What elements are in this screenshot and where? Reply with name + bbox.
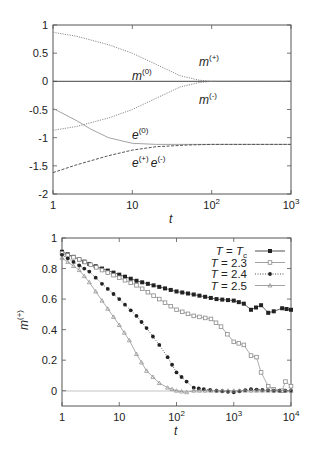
y-tick-label: -1.5 bbox=[29, 160, 48, 172]
bottom-series bbox=[60, 250, 293, 394]
series-0 bbox=[60, 250, 293, 315]
legend-label: T = 2.3 bbox=[211, 257, 247, 269]
series-line bbox=[53, 81, 291, 130]
legend-label: T = 2.4 bbox=[211, 268, 248, 280]
x-tick-label: 102 bbox=[203, 197, 220, 211]
y-tick-label: 1 bbox=[51, 232, 57, 244]
bottom-y-axis: 10.80.60.40.20 bbox=[42, 232, 291, 397]
legend: T = TcT = 2.3T = 2.4T = 2.5 bbox=[211, 245, 285, 292]
y-tick-label: 1 bbox=[42, 19, 48, 31]
figure: 10.50-0.5-1-1.5-2 110102103 t m(+) m(0) … bbox=[0, 0, 314, 452]
series-line bbox=[53, 144, 291, 172]
top-plot-frame bbox=[53, 25, 291, 194]
top-y-axis: 10.50-0.5-1-1.5-2 bbox=[29, 19, 291, 200]
x-tick-label: 1 bbox=[59, 411, 65, 423]
y-tick-label: -2 bbox=[38, 188, 48, 200]
x-tick-label: 103 bbox=[225, 409, 242, 423]
label-e-plus-minus: e(+)e(-) bbox=[132, 154, 166, 170]
y-tick-label: 0.2 bbox=[42, 354, 57, 366]
x-tick-label: 10 bbox=[126, 199, 138, 211]
y-tick-label: 0.6 bbox=[42, 293, 57, 305]
x-tick-label: 1 bbox=[50, 199, 56, 211]
top-series bbox=[53, 32, 291, 172]
x-tick-label: 102 bbox=[168, 409, 185, 423]
y-tick-label: 0.8 bbox=[42, 263, 57, 275]
series-line bbox=[53, 108, 291, 144]
series-line bbox=[62, 252, 291, 313]
x-tick-label: 10 bbox=[113, 411, 125, 423]
legend-label: T = 2.5 bbox=[211, 280, 247, 292]
bottom-y-axis-label: m(+) bbox=[15, 310, 31, 330]
top-x-axis: 110102103 bbox=[50, 25, 300, 211]
bottom-x-axis-label: t bbox=[174, 424, 178, 438]
x-tick-label: 103 bbox=[283, 197, 300, 211]
y-tick-label: 0 bbox=[51, 385, 57, 397]
label-m-plus: m(+) bbox=[199, 53, 219, 69]
y-tick-label: 0.4 bbox=[42, 324, 57, 336]
bottom-plot-frame bbox=[62, 238, 291, 406]
y-tick-label: 0.5 bbox=[33, 47, 48, 59]
x-tick-label: 104 bbox=[283, 409, 300, 423]
series-line bbox=[53, 32, 291, 81]
label-m-zero: m(0) bbox=[132, 67, 152, 83]
y-tick-label: 0 bbox=[42, 75, 48, 87]
top-x-axis-label: t bbox=[169, 212, 173, 226]
series-line bbox=[62, 253, 291, 390]
y-tick-label: -1 bbox=[38, 132, 48, 144]
label-e-zero: e(0) bbox=[132, 126, 149, 142]
top-plot: 10.50-0.5-1-1.5-2 110102103 t m(+) m(0) … bbox=[29, 19, 300, 226]
y-tick-label: -0.5 bbox=[29, 104, 48, 116]
bottom-plot: 10.80.60.40.20 110102103104 t m(+) T = T… bbox=[15, 232, 300, 438]
label-m-minus: m(-) bbox=[199, 91, 217, 107]
